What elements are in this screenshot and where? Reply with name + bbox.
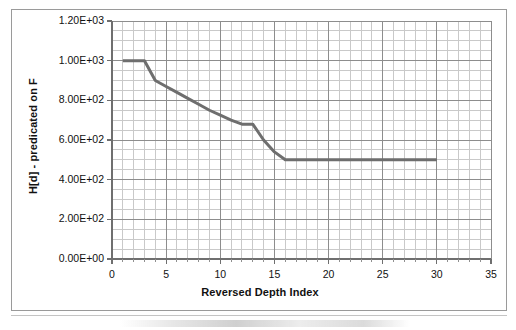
y-tick-label: 0.00E+00	[40, 252, 104, 264]
y-tick-label: 2.00E+02	[40, 212, 104, 224]
x-tick-label: 5	[146, 268, 186, 280]
caption-smudge	[120, 320, 410, 327]
x-tick-label: 20	[309, 268, 349, 280]
y-tick-label: 1.00E+03	[40, 54, 104, 66]
x-tick-label: 15	[254, 268, 294, 280]
x-tick-label: 35	[471, 268, 511, 280]
y-tick-label: 4.00E+02	[40, 173, 104, 185]
y-tick-label: 8.00E+02	[40, 93, 104, 105]
x-axis-title: Reversed Depth Index	[12, 286, 508, 298]
chart-frame: H[d] - predicated on F Reversed Depth In…	[11, 9, 507, 311]
y-tick-label: 1.20E+03	[40, 14, 104, 26]
x-tick-label: 25	[363, 268, 403, 280]
x-tick-label: 0	[92, 268, 132, 280]
y-axis-title: H[d] - predicated on F	[27, 51, 39, 221]
y-tick-label: 6.00E+02	[40, 133, 104, 145]
figure-root: H[d] - predicated on F Reversed Depth In…	[0, 0, 516, 330]
x-tick-label: 30	[417, 268, 457, 280]
page-edge-divider	[11, 315, 507, 316]
x-tick-label: 10	[200, 268, 240, 280]
